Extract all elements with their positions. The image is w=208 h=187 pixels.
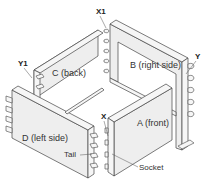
callout-y: Y	[195, 52, 201, 61]
box-dovetail-diagram: C (back) B (right side) D (left side) A …	[0, 0, 208, 187]
callout-x1: X1	[96, 7, 106, 16]
callout-x: X	[101, 112, 107, 121]
label-d-left-side: D (left side)	[22, 133, 68, 143]
label-a-front: A (front)	[137, 118, 169, 128]
label-b-right-side: B (right side)	[130, 60, 181, 70]
panel-d-left-side	[6, 86, 104, 178]
label-socket: Socket	[139, 163, 164, 172]
panel-c-back	[34, 30, 103, 100]
callout-y1: Y1	[18, 59, 28, 68]
label-tail: Tail	[64, 150, 76, 159]
label-c-back: C (back)	[52, 68, 86, 78]
